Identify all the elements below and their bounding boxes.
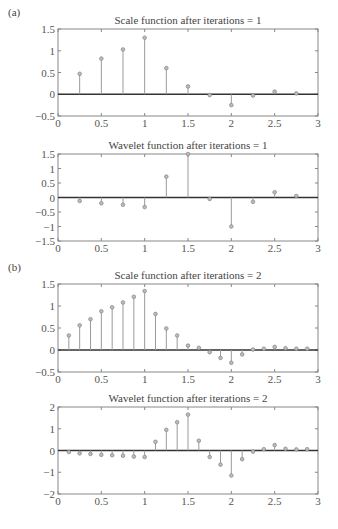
stem-marker [67,334,71,338]
x-tick-label: 1 [142,242,148,254]
stem-marker [273,345,277,349]
stem-marker [284,447,288,451]
x-tick-label: 0.5 [94,242,108,254]
stem-marker [175,420,179,424]
stem-marker [67,450,71,454]
stem-marker [262,347,266,351]
stem-marker [110,306,114,310]
x-tick-label: 2.5 [268,373,282,385]
stem-marker [251,450,255,454]
stem-marker [219,463,223,467]
y-tick-label: 0.5 [41,322,55,334]
y-tick-label: 0 [50,344,56,356]
x-tick-label: 2 [229,495,235,507]
y-tick-label: −1 [43,466,55,478]
stem-chart-3: Scale function after iterations = 200.51… [35,269,321,385]
stem-marker [230,225,234,229]
x-tick-label: 2 [229,373,235,385]
stem-marker [121,301,125,305]
x-tick-label: 1 [142,373,148,385]
stem-marker [154,440,158,444]
stem-marker [110,453,114,457]
x-tick-label: 1.5 [181,495,195,507]
stem-marker [305,447,309,451]
axes-box [58,284,318,372]
stem-marker [165,66,169,70]
stem-marker [295,194,299,198]
y-tick-label: 1 [50,423,56,435]
y-tick-label: 1 [50,300,56,312]
x-tick-label: 3 [315,373,321,385]
stem-chart-4: Wavelet function after iterations = 200.… [43,392,321,507]
stem-marker [240,353,244,357]
stem-marker [186,85,190,89]
y-tick-label: 1 [50,45,56,57]
stem-marker [295,347,299,351]
stem-marker [186,344,190,348]
x-tick-label: 3 [315,117,321,129]
stem-marker [197,439,201,443]
y-tick-label: 0.5 [41,67,55,79]
axes-box [58,29,318,116]
x-tick-label: 3 [315,495,321,507]
stem-marker [295,448,299,452]
stem-marker [251,200,255,204]
stem-marker [143,289,147,293]
stem-marker [121,203,125,207]
y-tick-label: −0.5 [35,110,55,122]
y-tick-label: 0 [50,445,56,457]
y-tick-label: −2 [43,488,55,500]
y-tick-label: 0 [50,192,56,204]
x-tick-label: 1 [142,117,148,129]
stem-marker [295,92,299,96]
stem-marker [273,443,277,447]
y-tick-label: 0.5 [41,177,55,189]
stem-marker [284,346,288,350]
stem-marker [262,447,266,451]
stem-marker [143,36,147,40]
x-tick-label: 1.5 [181,373,195,385]
stem-marker [78,324,82,328]
stem-marker [100,202,104,206]
x-tick-label: 0 [55,495,61,507]
stem-chart-1: Scale function after iterations = 100.51… [35,14,321,129]
stem-marker [219,356,223,360]
stem-marker [165,327,169,331]
stem-chart-2: Wavelet function after iterations = 100.… [35,139,321,254]
y-tick-label: −0.5 [35,206,55,218]
stem-marker [143,205,147,209]
stem-marker [186,152,190,156]
x-tick-label: 2.5 [268,242,282,254]
stem-marker [240,457,244,461]
x-tick-label: 0.5 [94,373,108,385]
y-tick-label: −1.5 [35,235,55,247]
y-tick-label: 0 [50,88,56,100]
x-tick-label: 2.5 [268,495,282,507]
stem-marker [121,48,125,52]
stem-marker [208,197,212,201]
x-tick-label: 0 [55,373,61,385]
stem-marker [165,175,169,179]
stem-marker [89,452,93,456]
y-tick-label: −0.5 [35,366,55,378]
x-tick-label: 1.5 [181,242,195,254]
y-tick-label: 1 [50,163,56,175]
x-tick-label: 2.5 [268,117,282,129]
x-tick-label: 1 [142,495,148,507]
stem-marker [143,455,147,459]
stem-marker [154,312,158,316]
stem-marker [165,428,169,432]
stem-marker [89,317,93,321]
stem-marker [175,334,179,338]
stem-marker [251,348,255,352]
x-tick-label: 2 [229,117,235,129]
stem-marker [273,90,277,94]
stem-marker [230,103,234,107]
stem-marker [305,347,309,351]
stem-marker [121,454,125,458]
y-tick-label: 2 [50,401,56,413]
stem-marker [230,361,234,365]
stem-marker [273,190,277,194]
stem-marker [78,72,82,76]
stem-marker [132,295,136,299]
